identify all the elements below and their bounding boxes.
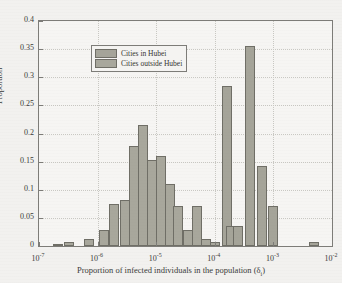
histogram-figure: Proportion Cities in Hubei Cities outsid…: [0, 0, 342, 283]
y-axis-tick-label: 0.25: [0, 100, 34, 108]
legend-item-outside-hubei: Cities outside Hubei: [95, 59, 182, 68]
x-axis-tick-label: 10-4: [207, 252, 220, 263]
legend: Cities in Hubei Cities outside Hubei: [91, 45, 187, 72]
histogram-bar: [99, 230, 109, 246]
y-axis-tick-label: 0.35: [0, 44, 34, 52]
x-axis-label-text: Proportion of infected individuals in th…: [77, 265, 261, 275]
x-axis-tick-mark: [98, 242, 99, 246]
legend-item-hubei: Cities in Hubei: [95, 49, 182, 58]
x-axis-tick-label: 10-2: [325, 252, 338, 263]
histogram-bar: [84, 239, 94, 246]
y-axis-tick-mark: [39, 21, 43, 22]
y-axis-tick-label: 0.1: [0, 185, 34, 193]
y-axis-tick-mark: [39, 49, 43, 50]
x-axis-tick-label: 10-3: [266, 252, 279, 263]
y-axis-tick-mark: [39, 77, 43, 78]
legend-swatch-outside-hubei: [95, 59, 117, 68]
x-axis-tick-mark: [156, 242, 157, 246]
x-axis-tick-mark: [215, 242, 216, 246]
plot-area: Cities in Hubei Cities outside Hubei: [38, 20, 333, 247]
legend-label-outside-hubei: Cities outside Hubei: [121, 60, 182, 68]
histogram-bar: [109, 204, 119, 246]
histogram-bar: [64, 242, 74, 247]
histogram-bar: [257, 166, 267, 246]
y-axis-tick-label: 0.15: [0, 157, 34, 165]
legend-swatch-hubei: [95, 49, 117, 58]
y-axis-tick-mark: [39, 162, 43, 163]
x-axis-tick-label: 10-7: [32, 252, 45, 263]
x-axis-label-paren: ): [262, 265, 265, 275]
y-axis-tick-label: 0.2: [0, 129, 34, 137]
y-axis-tick-label: 0.3: [0, 72, 34, 80]
histogram-bar: [245, 46, 255, 246]
y-axis-tick-label: 0.05: [0, 213, 34, 221]
histogram-bar: [233, 226, 243, 246]
y-axis-tick-mark: [39, 246, 43, 247]
histogram-bar: [309, 242, 319, 246]
x-axis-label: Proportion of infected individuals in th…: [0, 265, 342, 277]
x-axis-tick-label: 10-6: [90, 252, 103, 263]
x-axis-tick-mark: [332, 242, 333, 246]
histogram-bar: [173, 206, 183, 247]
x-axis-tick-mark: [39, 242, 40, 246]
y-axis-tick-mark: [39, 190, 43, 191]
y-axis-tick-mark: [39, 134, 43, 135]
histogram-bar: [222, 86, 232, 246]
y-axis-tick-label: 0.4: [0, 16, 34, 24]
x-axis-tick-mark: [273, 242, 274, 246]
y-axis-tick-mark: [39, 105, 43, 106]
y-axis-tick-label: 0: [0, 241, 34, 249]
legend-label-hubei: Cities in Hubei: [121, 50, 166, 58]
histogram-bar: [53, 244, 63, 246]
y-axis-tick-mark: [39, 218, 43, 219]
x-axis-tick-label: 10-5: [149, 252, 162, 263]
histogram-bar: [268, 206, 278, 246]
